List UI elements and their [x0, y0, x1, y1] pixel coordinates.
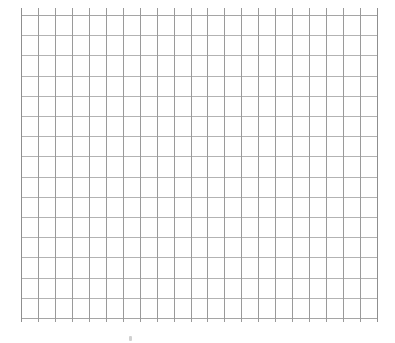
gridline-horizontal	[21, 257, 377, 258]
gridline-vertical	[123, 8, 124, 322]
gridline-vertical	[72, 8, 73, 322]
gridline-vertical	[157, 8, 158, 322]
gridline-vertical	[360, 8, 361, 322]
gridline-horizontal	[21, 96, 377, 97]
gridline-vertical	[241, 8, 242, 322]
gridline-vertical	[21, 8, 22, 322]
gridline-vertical	[191, 8, 192, 322]
gridline-horizontal	[21, 136, 377, 137]
gridline-vertical	[292, 8, 293, 322]
horizontal-gridlines	[21, 15, 377, 318]
graph-paper-grid	[21, 15, 377, 318]
gridline-vertical	[377, 8, 378, 322]
gridline-vertical	[106, 8, 107, 322]
scan-speck-artifact	[129, 336, 132, 341]
gridline-vertical	[174, 8, 175, 322]
vertical-gridlines	[21, 15, 377, 318]
gridline-vertical	[55, 8, 56, 322]
gridline-vertical	[275, 8, 276, 322]
gridline-horizontal	[21, 217, 377, 218]
gridline-horizontal	[21, 177, 377, 178]
gridline-horizontal	[21, 197, 377, 198]
gridline-horizontal	[21, 237, 377, 238]
gridline-horizontal	[21, 76, 377, 77]
gridline-vertical	[89, 8, 90, 322]
gridline-horizontal	[21, 318, 377, 319]
gridline-vertical	[140, 8, 141, 322]
gridline-horizontal	[21, 116, 377, 117]
gridline-vertical	[207, 8, 208, 322]
gridline-vertical	[258, 8, 259, 322]
gridline-vertical	[38, 8, 39, 322]
gridline-vertical	[309, 8, 310, 322]
gridline-horizontal	[21, 156, 377, 157]
gridline-horizontal	[21, 35, 377, 36]
gridline-vertical	[224, 8, 225, 322]
gridline-vertical	[326, 8, 327, 322]
gridline-horizontal	[21, 298, 377, 299]
gridline-horizontal	[21, 15, 377, 16]
page-canvas	[0, 0, 395, 343]
gridline-horizontal	[21, 55, 377, 56]
gridline-horizontal	[21, 278, 377, 279]
gridline-vertical	[343, 8, 344, 322]
